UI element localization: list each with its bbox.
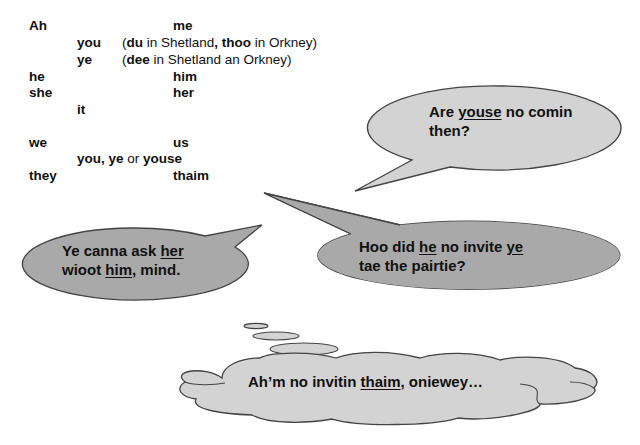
thought-trail xyxy=(244,323,338,355)
bubble-text-thaim: Ah’m no invitin thaim, oniewey… xyxy=(248,372,483,391)
bubble-text-her: Ye canna ask her wioot him, mind. xyxy=(62,241,184,279)
bubble-text-he: Hoo did he no invite ye tae the pairtie? xyxy=(359,237,523,275)
bubble-text-youse: Are youse no comin then? xyxy=(429,102,572,140)
